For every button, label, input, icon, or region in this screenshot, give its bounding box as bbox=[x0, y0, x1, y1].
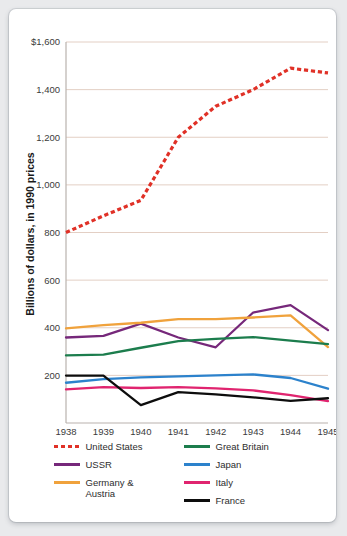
x-tick-label: 1940 bbox=[130, 426, 151, 437]
x-tick-label: 1942 bbox=[205, 426, 226, 437]
legend-swatch-icon bbox=[54, 459, 80, 470]
legend-column-2: Great BritainJapanItalyFrance bbox=[184, 441, 300, 519]
legend-swatch-icon bbox=[184, 441, 210, 452]
legend-swatch-icon bbox=[184, 495, 210, 506]
y-tick-label: 1,000 bbox=[36, 179, 60, 190]
x-tick-label: 1939 bbox=[93, 426, 114, 437]
legend-swatch-icon bbox=[54, 441, 80, 452]
legend-columns: United StatesUSSRGermany & AustriaGreat … bbox=[46, 441, 300, 519]
legend-japan[interactable]: Japan bbox=[184, 459, 300, 470]
legend-label: Japan bbox=[216, 459, 242, 470]
x-axis-title: Year bbox=[186, 437, 208, 439]
chart-plot-area: $1,6001,4001,2001,0008006004002001938193… bbox=[9, 9, 336, 439]
legend-germany-austria[interactable]: Germany & Austria bbox=[54, 477, 170, 499]
x-tick-label: 1945 bbox=[317, 426, 336, 437]
y-tick-label: 800 bbox=[44, 227, 60, 238]
x-tick-label: 1938 bbox=[55, 426, 76, 437]
y-tick-label: 1,200 bbox=[36, 132, 60, 143]
y-tick-label: 400 bbox=[44, 322, 60, 333]
legend-label: Italy bbox=[216, 477, 233, 488]
legend-swatch-icon bbox=[54, 477, 80, 488]
chart-card: $1,6001,4001,2001,0008006004002001938193… bbox=[9, 9, 336, 522]
y-axis-title: Billions of dollars, in 1990 prices bbox=[24, 152, 36, 316]
line-chart: $1,6001,4001,2001,0008006004002001938193… bbox=[9, 9, 336, 439]
legend-swatch-icon bbox=[184, 477, 210, 488]
y-tick-label: 200 bbox=[44, 370, 60, 381]
legend-ussr[interactable]: USSR bbox=[54, 459, 170, 470]
y-tick-label: 600 bbox=[44, 275, 60, 286]
y-tick-label: 1,400 bbox=[36, 84, 60, 95]
x-tick-label: 1944 bbox=[280, 426, 301, 437]
legend-column-1: United StatesUSSRGermany & Austria bbox=[54, 441, 170, 519]
series-line-united-states bbox=[66, 68, 328, 232]
legend-label: USSR bbox=[86, 459, 112, 470]
y-tick-label: $1,600 bbox=[31, 36, 60, 47]
x-tick-label: 1941 bbox=[168, 426, 189, 437]
legend-label: France bbox=[216, 495, 246, 506]
legend-united-states[interactable]: United States bbox=[54, 441, 170, 452]
legend-italy[interactable]: Italy bbox=[184, 477, 300, 488]
legend-label: United States bbox=[86, 441, 143, 452]
series-line-great-britain bbox=[66, 337, 328, 355]
chart-legend: United StatesUSSRGermany & AustriaGreat … bbox=[9, 441, 336, 519]
legend-label: Great Britain bbox=[216, 441, 269, 452]
x-tick-label: 1943 bbox=[243, 426, 264, 437]
legend-france[interactable]: France bbox=[184, 495, 300, 506]
legend-swatch-icon bbox=[184, 459, 210, 470]
legend-label: Germany & Austria bbox=[86, 477, 134, 499]
legend-great-britain[interactable]: Great Britain bbox=[184, 441, 300, 452]
